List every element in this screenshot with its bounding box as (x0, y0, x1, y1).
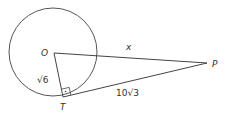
label-O: O (41, 48, 48, 58)
label-P: P (212, 59, 218, 69)
label-x: x (125, 42, 132, 52)
segment-OP (54, 53, 207, 63)
right-angle-dot (65, 91, 67, 93)
label-10sqrt3: 10√3 (116, 88, 139, 98)
label-T: T (60, 102, 67, 112)
tangent-circle-diagram: O T P x √6 10√3 (0, 0, 226, 114)
circle (9, 8, 97, 96)
label-sqrt6: √6 (37, 75, 49, 85)
segment-OT (54, 53, 63, 97)
